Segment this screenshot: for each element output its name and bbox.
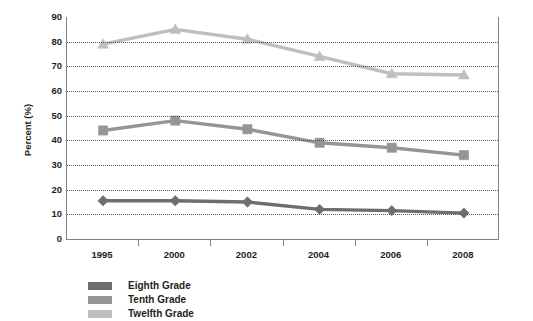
gridline <box>67 190 498 191</box>
chart-legend: Eighth GradeTenth GradeTwelfth Grade <box>88 279 318 321</box>
legend-item: Twelfth Grade <box>88 307 318 320</box>
x-tick-mark <box>210 239 211 246</box>
legend-swatch-icon <box>88 310 112 318</box>
gridline <box>67 116 498 117</box>
y-tick-label: 20 <box>36 185 62 195</box>
series-line <box>103 201 464 213</box>
y-tick-label: 0 <box>36 234 62 244</box>
y-tick-label: 70 <box>36 62 62 72</box>
gridline <box>67 91 498 92</box>
gridline <box>67 42 498 43</box>
legend-item: Eighth Grade <box>88 279 318 292</box>
x-tick-mark <box>427 239 428 246</box>
x-tick-mark <box>138 239 139 246</box>
y-axis-title-label: Percent (%) <box>22 104 33 156</box>
x-tick-label: 2000 <box>164 249 185 260</box>
x-axis-ticks <box>66 239 499 247</box>
data-point-marker <box>98 126 107 135</box>
gridline <box>67 165 498 166</box>
series-twelfth-grade <box>98 24 470 79</box>
y-tick-label: 40 <box>36 136 62 146</box>
data-point-marker <box>242 197 252 207</box>
legend-item: Tenth Grade <box>88 293 318 306</box>
data-point-marker <box>98 196 108 206</box>
y-axis-title: Percent (%) <box>18 20 36 240</box>
gridline <box>67 214 498 215</box>
legend-label: Eighth Grade <box>128 280 191 291</box>
legend-swatch-icon <box>88 282 112 290</box>
x-tick-label: 2008 <box>452 249 473 260</box>
x-tick-label: 2006 <box>380 249 401 260</box>
series-line <box>103 29 464 75</box>
data-point-marker <box>314 204 324 214</box>
y-tick-label: 90 <box>36 12 62 22</box>
series-line <box>103 121 464 156</box>
data-point-marker <box>459 151 468 160</box>
y-tick-label: 30 <box>36 160 62 170</box>
gridline <box>67 66 498 67</box>
y-tick-label: 60 <box>36 86 62 96</box>
series-tenth-grade <box>98 116 468 160</box>
y-tick-label: 80 <box>36 37 62 47</box>
data-point-marker <box>387 143 396 152</box>
x-tick-label: 1995 <box>92 249 113 260</box>
data-point-marker <box>243 125 252 134</box>
data-point-marker <box>171 116 180 125</box>
x-axis-tick-labels: 199520002002200420062008 <box>66 249 499 265</box>
x-tick-mark <box>355 239 356 246</box>
x-tick-label: 2002 <box>236 249 257 260</box>
legend-label: Twelfth Grade <box>128 308 194 319</box>
data-point-marker <box>170 196 180 206</box>
y-axis-tick-labels: 9080706050403020100 <box>36 17 62 239</box>
x-tick-mark <box>283 239 284 246</box>
y-tick-label: 50 <box>36 111 62 121</box>
plot-area <box>66 17 499 239</box>
legend-swatch-icon <box>88 296 112 304</box>
x-tick-label: 2004 <box>308 249 329 260</box>
legend-label: Tenth Grade <box>128 294 186 305</box>
data-point-marker <box>459 208 469 218</box>
y-tick-label: 10 <box>36 210 62 220</box>
series-layer <box>67 17 500 239</box>
gridline <box>67 140 498 141</box>
